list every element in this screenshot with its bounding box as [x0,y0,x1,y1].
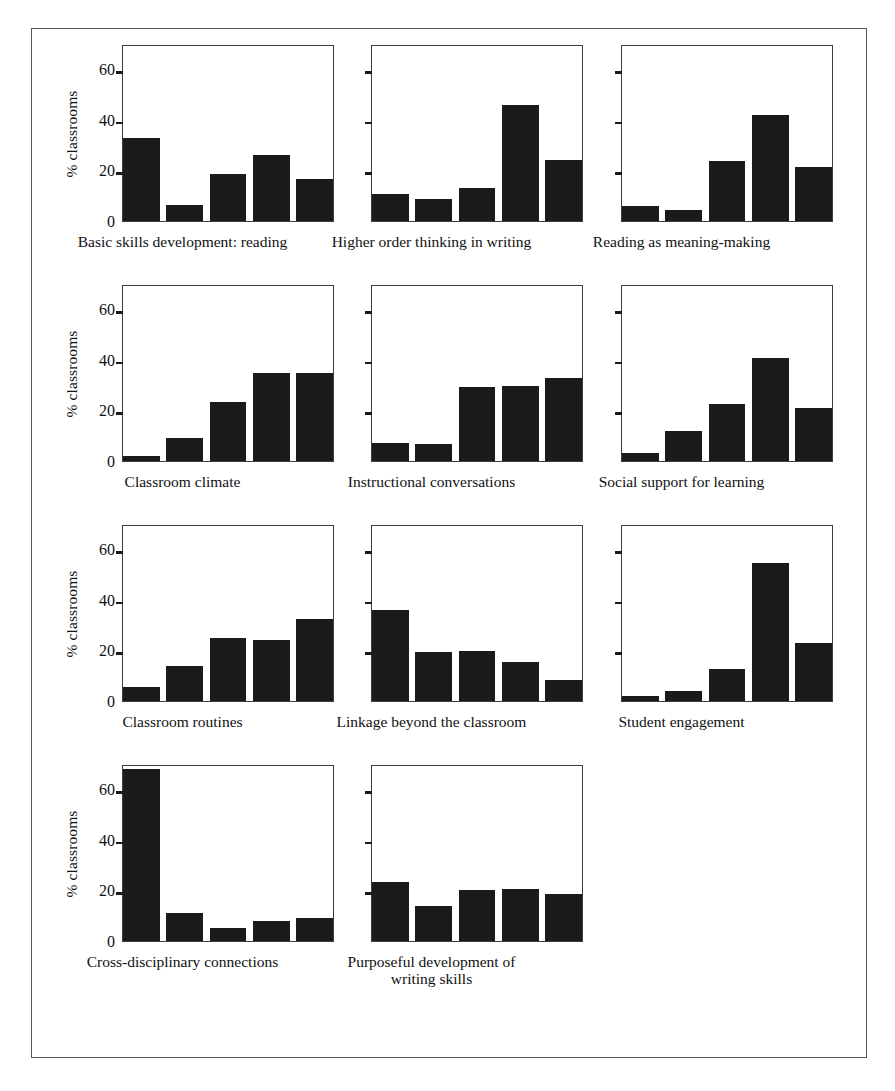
bar [415,199,452,221]
bar [415,652,452,701]
y-axis-tick [365,892,372,894]
chart-panel: Student engagement [530,508,833,765]
y-axis-tick [365,412,372,414]
bar [166,666,203,701]
y-tick-label-group: 0204060 [65,765,115,942]
y-axis-tick [615,551,622,553]
bar [210,638,247,701]
bar [665,431,702,461]
y-axis-tick [116,311,123,313]
bar [665,210,702,221]
y-axis-tick [116,412,123,414]
y-axis-tick [116,71,123,73]
y-tick-label: 40 [99,833,115,849]
y-tick-label-group: 0204060 [65,525,115,702]
panel-title: Purposeful development of writing skills [280,953,583,988]
bar-series [372,766,582,941]
bar [622,206,659,221]
y-tick-label: 20 [99,643,115,659]
bar [123,687,160,701]
y-tick-label: 0 [107,934,115,950]
bar [372,882,409,941]
bar-series [622,526,832,701]
bar [795,643,832,701]
plot-area [371,765,583,942]
y-tick-label: 40 [99,353,115,369]
y-axis-tick [615,652,622,654]
y-axis-tick [365,551,372,553]
bar [795,408,832,461]
bar [459,651,496,701]
y-axis-tick [365,122,372,124]
bar [210,928,247,941]
y-axis-tick [116,551,123,553]
y-axis-tick [615,602,622,604]
bar [752,115,789,221]
bar [459,890,496,941]
y-tick-label: 40 [99,593,115,609]
bar [166,205,203,221]
chart-panel: Purposeful development of writing skills [280,748,583,1005]
y-axis-tick [116,362,123,364]
y-axis-tick [615,122,622,124]
y-tick-label-group: 0204060 [65,45,115,222]
y-axis-tick [365,791,372,793]
bar [752,563,789,701]
bar [622,696,659,701]
bar [795,167,832,221]
y-tick-label: 0 [107,214,115,230]
figure-root: % classrooms0204060Basic skills developm… [0,0,895,1091]
bar [752,358,789,461]
bar [459,188,496,221]
y-tick-label: 20 [99,403,115,419]
y-axis-tick [365,362,372,364]
y-axis-tick [116,602,123,604]
y-tick-label: 60 [99,782,115,798]
bar [459,387,496,461]
y-tick-label: 60 [99,62,115,78]
y-axis-tick [116,122,123,124]
bar-series [622,286,832,461]
bar [709,404,746,461]
chart-panel: Social support for learning [530,268,833,525]
panel-title: Student engagement [530,713,833,730]
y-tick-label: 0 [107,694,115,710]
y-axis-tick [365,842,372,844]
plot-area [621,45,833,222]
bar [545,894,582,942]
y-axis-tick [615,362,622,364]
bar [709,161,746,221]
y-axis-tick [116,652,123,654]
panel-title: Social support for learning [530,473,833,490]
y-axis-tick [365,602,372,604]
chart-panel: Reading as meaning-making [530,28,833,285]
bar [210,402,247,461]
y-axis-tick [116,172,123,174]
bar [123,769,160,941]
y-axis-tick [365,71,372,73]
bar [372,443,409,461]
plot-area [621,285,833,462]
y-axis-tick [615,172,622,174]
bar [622,453,659,461]
y-axis-tick [116,892,123,894]
plot-area [621,525,833,702]
y-tick-label: 60 [99,542,115,558]
y-axis-tick [365,172,372,174]
y-tick-label: 0 [107,454,115,470]
bar [709,669,746,701]
bar [372,610,409,701]
bar [502,889,539,941]
y-tick-label: 20 [99,883,115,899]
bar [665,691,702,701]
y-axis-tick [615,311,622,313]
panel-grid: % classrooms0204060Basic skills developm… [31,28,867,1058]
bar [415,906,452,941]
bar [210,174,247,221]
y-tick-label-group: 0204060 [65,285,115,462]
y-axis-tick [365,311,372,313]
bar [166,438,203,461]
bar [123,456,160,461]
y-axis-tick [116,842,123,844]
y-axis-tick [615,71,622,73]
